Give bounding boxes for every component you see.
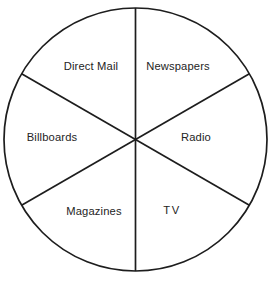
slice-label-billboards: Billboards	[27, 131, 78, 143]
pie-chart-canvas: Newspapers Radio TV Magazines Billboards…	[0, 0, 276, 282]
slice-label-radio: Radio	[181, 131, 211, 143]
slice-label-newspapers: Newspapers	[146, 60, 210, 72]
advertising-media-pie-chart: Newspapers Radio TV Magazines Billboards…	[0, 0, 276, 282]
slice-label-magazines: Magazines	[66, 205, 122, 217]
slice-label-tv: TV	[163, 204, 181, 216]
slice-label-direct-mail: Direct Mail	[64, 60, 119, 72]
